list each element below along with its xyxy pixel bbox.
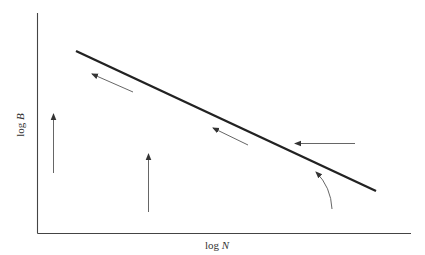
x-axis-label: log N: [205, 239, 229, 251]
y-axis-label-var: B: [14, 113, 26, 120]
y-axis-label: log B: [14, 113, 26, 137]
main-line: [76, 51, 376, 191]
x-axis-label-prefix: log: [205, 239, 219, 251]
y-axis-label-prefix: log: [14, 123, 26, 137]
arrow-curved-icon: [316, 172, 332, 209]
arrow-middle-icon: [213, 128, 248, 145]
arrow-upper-left-icon: [92, 74, 133, 92]
x-axis-label-var: N: [222, 239, 229, 251]
diagram-canvas: [0, 0, 425, 255]
